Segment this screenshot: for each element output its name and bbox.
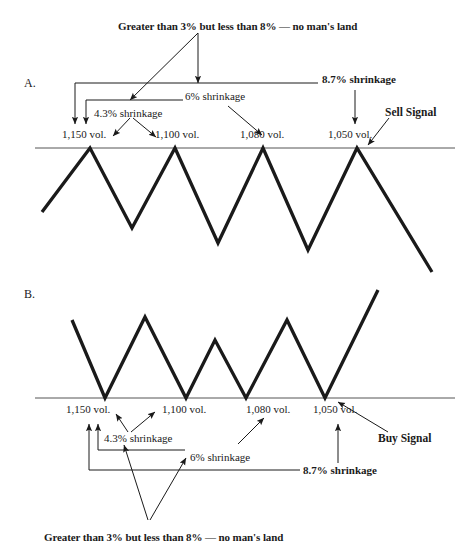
panel-b-volume-label-1150: 1,150 vol. [66,404,110,415]
panel-b-buy-signal-label: Buy Signal [378,433,431,445]
panel-b-volume-label-1080: 1,080 vol. [246,404,290,415]
panel-a-shrinkage-87-label: 8.7% shrinkage [322,74,396,85]
panel-b-shrinkage-6-label: 6% shrinkage [190,452,250,463]
panel-a-43-leader-right [133,118,156,137]
panel-a-volume-label-1100: 1,100 vol. [155,129,199,140]
panel-a-volume-label-1050: 1,050 vol. [328,129,372,140]
figure-canvas: Greater than 3% but less than 8% — no ma… [0,0,473,558]
panel-b-price-zigzag [72,290,378,398]
panel-a-volume-label-1080: 1,080 vol. [240,129,284,140]
panel-b-volume-label-1100: 1,100 vol. [162,404,206,415]
panel-a-volume-label-1150: 1,150 vol. [62,129,106,140]
panel-a-43-leader-left [113,118,130,136]
panel-a-shrinkage-43-label: 4.3% shrinkage [94,108,162,119]
panel-b-volume-label-1050: 1,050 vol. [313,404,357,415]
panel-b-shrinkage-43-label: 4.3% shrinkage [104,433,172,444]
top-no-mans-land-caption: Greater than 3% but less than 8% — no ma… [118,21,357,32]
panel-b-87-leader [89,424,300,470]
panel-b-letter: B. [24,288,35,300]
panel-b-shrinkage-87-label: 8.7% shrinkage [303,465,377,476]
panel-b-nomansland-leader-right [150,458,186,520]
panel-b-43-leader-left [116,414,128,432]
panel-a-sell-signal-label: Sell Signal [385,107,436,119]
panel-a-letter: A. [24,77,36,89]
panel-a-price-zigzag [42,148,432,272]
panel-a-shrinkage-6-label: 6% shrinkage [185,91,245,102]
panel-b-6-leader-right [238,418,264,444]
diagram-vector-layer [0,0,473,558]
panel-b-nomansland-leader-left [124,445,148,520]
panel-b-43-leader-right [131,412,155,432]
bottom-no-mans-land-caption: Greater than 3% but less than 8% — no ma… [44,532,283,543]
